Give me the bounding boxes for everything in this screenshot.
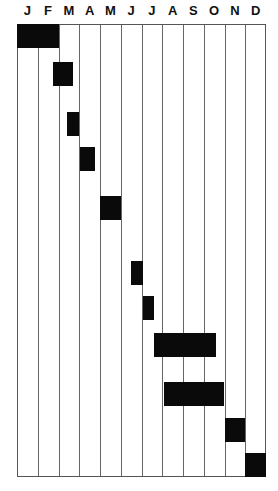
month-label: J — [17, 3, 38, 18]
month-label: F — [38, 3, 59, 18]
month-label: M — [100, 3, 121, 18]
gridline — [59, 25, 60, 476]
gantt-grid — [17, 24, 266, 477]
gridline — [204, 25, 205, 476]
task-bar — [100, 196, 121, 220]
task-bar — [67, 112, 79, 136]
task-bar — [80, 147, 95, 171]
task-bar — [131, 261, 142, 285]
task-bar — [154, 333, 216, 357]
month-label: M — [59, 3, 80, 18]
task-bar — [164, 382, 224, 406]
month-label: J — [121, 3, 142, 18]
month-label: A — [162, 3, 183, 18]
gridline — [79, 25, 80, 476]
task-bar — [225, 418, 246, 442]
month-label: O — [204, 3, 225, 18]
gridline — [100, 25, 101, 476]
month-label: N — [225, 3, 246, 18]
month-label: S — [183, 3, 204, 18]
gridline — [183, 25, 184, 476]
task-bar — [245, 453, 266, 477]
gridline — [121, 25, 122, 476]
month-label: A — [79, 3, 100, 18]
gridline — [225, 25, 226, 476]
task-bar — [143, 296, 154, 320]
gridline — [162, 25, 163, 476]
task-bar — [53, 62, 73, 86]
gridline — [142, 25, 143, 476]
month-label: J — [142, 3, 163, 18]
gridline — [245, 25, 246, 476]
gridline — [38, 25, 39, 476]
month-label: D — [245, 3, 266, 18]
task-bar — [17, 24, 59, 48]
